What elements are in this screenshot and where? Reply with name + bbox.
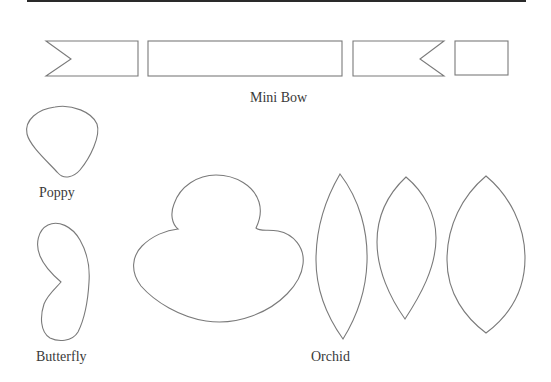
orchid-petal-wide-shape: [447, 176, 525, 333]
template-shapes: [0, 0, 551, 382]
orchid-label: Orchid: [311, 349, 350, 365]
mini-bow-long-strip: [148, 41, 342, 76]
mini-bow-notched-right-strip: [353, 41, 444, 76]
poppy-label: Poppy: [39, 185, 75, 201]
mini-bow-label: Mini Bow: [250, 90, 307, 106]
mini-bow-group: [46, 41, 508, 76]
orchid-lip-shape: [134, 175, 304, 322]
template-page: Mini Bow Poppy Butterfly Orchid: [0, 0, 551, 382]
butterfly-label: Butterfly: [36, 349, 87, 365]
butterfly-wing-shape: [38, 223, 90, 340]
orchid-petal-medium-shape: [377, 177, 436, 319]
poppy-petal-shape: [27, 106, 98, 177]
orchid-petal-narrow-shape: [316, 174, 367, 339]
mini-bow-small-square: [455, 41, 508, 75]
mini-bow-notched-left-strip: [46, 41, 138, 76]
